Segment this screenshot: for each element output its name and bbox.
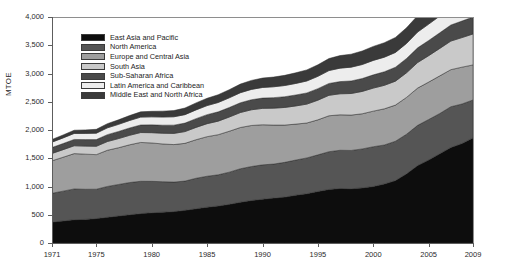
chart-figure: MTOE 05001,0001,5002,0002,5003,0003,5004… [0, 0, 507, 269]
legend-swatch [81, 82, 105, 89]
legend-swatch [81, 34, 105, 41]
y-tick-mark [48, 74, 52, 75]
x-tick-mark [473, 243, 474, 247]
x-tick-mark [318, 243, 319, 247]
y-tick: 4,000 [0, 13, 52, 21]
x-tick-label: 2005 [409, 250, 449, 259]
legend-swatch [81, 92, 105, 99]
y-tick-mark [48, 45, 52, 46]
x-tick-label: 2000 [353, 250, 393, 259]
y-tick-label: 0 [0, 239, 44, 247]
y-tick: 500 [0, 211, 52, 219]
y-tick-mark [48, 130, 52, 131]
y-tick-label: 1,500 [0, 154, 44, 162]
y-tick-label: 2,000 [0, 126, 44, 134]
y-tick-mark [48, 17, 52, 18]
y-tick-mark [48, 187, 52, 188]
y-tick-mark [48, 243, 52, 244]
x-tick-mark [263, 243, 264, 247]
legend-swatch [81, 63, 105, 70]
y-tick: 1,000 [0, 183, 52, 191]
chart-legend: East Asia and PacificNorth AmericaEurope… [79, 31, 207, 102]
y-tick-label: 2,500 [0, 98, 44, 106]
x-tick-mark [373, 243, 374, 247]
x-tick-label: 1995 [298, 250, 338, 259]
y-tick: 0 [0, 239, 52, 247]
x-tick-mark [52, 243, 53, 247]
x-tick-label: 1971 [32, 250, 72, 259]
y-tick-label: 3,500 [0, 41, 44, 49]
x-tick-label: 2009 [453, 250, 493, 259]
plot-right-border [473, 17, 474, 244]
y-tick: 1,500 [0, 154, 52, 162]
y-tick-label: 4,000 [0, 13, 44, 21]
legend-item[interactable]: East Asia and Pacific [81, 33, 204, 43]
x-tick-label: 1975 [76, 250, 116, 259]
legend-label: Latin America and Caribbean [110, 82, 204, 90]
y-tick: 3,500 [0, 41, 52, 49]
y-tick: 3,000 [0, 70, 52, 78]
x-tick-label: 1990 [243, 250, 283, 259]
legend-swatch [81, 73, 105, 80]
y-tick: 2,000 [0, 126, 52, 134]
y-tick-mark [48, 158, 52, 159]
legend-item[interactable]: South Asia [81, 62, 204, 72]
legend-label: Europe and Central Asia [110, 53, 189, 61]
y-tick-mark [48, 102, 52, 103]
legend-item[interactable]: Latin America and Caribbean [81, 81, 204, 91]
legend-label: East Asia and Pacific [110, 34, 178, 42]
legend-item[interactable]: Middle East and North Africa [81, 91, 204, 101]
legend-label: North America [110, 43, 156, 51]
legend-label: Middle East and North Africa [110, 91, 202, 99]
y-tick-mark [48, 215, 52, 216]
x-tick-label: 1980 [132, 250, 172, 259]
y-tick: 2,500 [0, 98, 52, 106]
x-tick-mark [207, 243, 208, 247]
legend-label: South Asia [110, 63, 145, 71]
x-tick-mark [429, 243, 430, 247]
legend-item[interactable]: North America [81, 43, 204, 53]
legend-label: Sub-Saharan Africa [110, 72, 173, 80]
plot-top-border [52, 17, 474, 18]
legend-item[interactable]: Sub-Saharan Africa [81, 71, 204, 81]
legend-item[interactable]: Europe and Central Asia [81, 52, 204, 62]
legend-swatch [81, 53, 105, 60]
x-tick-mark [96, 243, 97, 247]
y-axis-ticks: 05001,0001,5002,0002,5003,0003,5004,000 [0, 0, 52, 269]
x-tick-label: 1985 [187, 250, 227, 259]
y-tick-label: 3,000 [0, 70, 44, 78]
y-tick-label: 500 [0, 211, 44, 219]
x-tick-mark [152, 243, 153, 247]
y-tick-label: 1,000 [0, 183, 44, 191]
legend-swatch [81, 44, 105, 51]
y-axis-line [52, 17, 53, 244]
